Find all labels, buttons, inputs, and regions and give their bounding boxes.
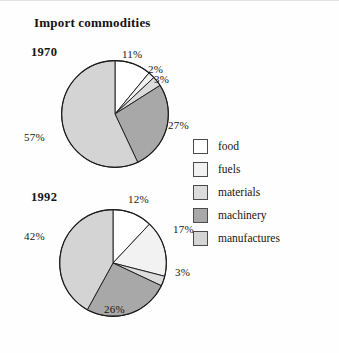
legend-item-materials: materials [193,181,333,203]
page-title: Import commodities [34,15,151,31]
pie-label-1992-food: 12% [128,193,149,205]
pie-label-1992-materials: 3% [175,266,190,278]
legend-item-manufactures: manufactures [193,227,333,249]
pie-label-1970-materials: 3% [154,73,169,85]
pie-label-1992-manufactures: 42% [24,230,45,242]
pie-label-1970-manufactures: 57% [24,131,45,143]
pie-label-1970-machinery: 27% [168,119,189,131]
pie-label-1992-machinery: 26% [104,303,125,315]
legend-item-machinery: machinery [193,204,333,226]
legend-label-machinery: machinery [218,209,267,221]
legend-swatch-materials [193,185,208,200]
figure-canvas: Import commodities 1970 11% 2% 3% 27% 57… [0,0,339,353]
legend-label-food: food [218,140,239,152]
legend-label-manufactures: manufactures [218,232,280,244]
legend-item-fuels: fuels [193,158,333,180]
legend-swatch-fuels [193,162,208,177]
legend-swatch-manufactures [193,231,208,246]
chart-year-label-1992: 1992 [31,190,57,205]
chart-year-label-1970: 1970 [31,45,57,60]
legend: food fuels materials machinery manufactu… [193,135,333,250]
pie-label-1970-food: 11% [122,48,142,60]
legend-item-food: food [193,135,333,157]
pie-label-1992-fuels: 17% [173,223,194,235]
legend-label-fuels: fuels [218,163,240,175]
legend-swatch-food [193,139,208,154]
legend-swatch-machinery [193,208,208,223]
legend-label-materials: materials [218,186,260,198]
